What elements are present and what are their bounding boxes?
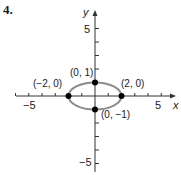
data-point: [66, 93, 72, 99]
point-label-bottom: (0, −1): [101, 109, 130, 120]
data-point: [92, 80, 98, 86]
x-tick-label-5: 5: [155, 99, 161, 111]
ellipse-graph: −5 5 5 −5 x y (−2, 0) (2, 0) (0, 1) (0, …: [0, 0, 181, 175]
y-tick-label-neg5: −5: [79, 156, 92, 168]
data-point: [119, 93, 125, 99]
y-axis-label: y: [82, 6, 90, 18]
x-axis-label: x: [172, 99, 179, 111]
point-label-left: (−2, 0): [33, 78, 62, 89]
x-axis-arrow-icon: [170, 94, 176, 99]
point-label-right: (2, 0): [121, 78, 144, 89]
point-label-top: (0, 1): [70, 67, 93, 78]
y-axis-arrow-icon: [93, 10, 98, 16]
y-tick-label-5: 5: [84, 23, 90, 35]
x-tick-label-neg5: −5: [23, 99, 36, 111]
data-point: [92, 107, 98, 113]
